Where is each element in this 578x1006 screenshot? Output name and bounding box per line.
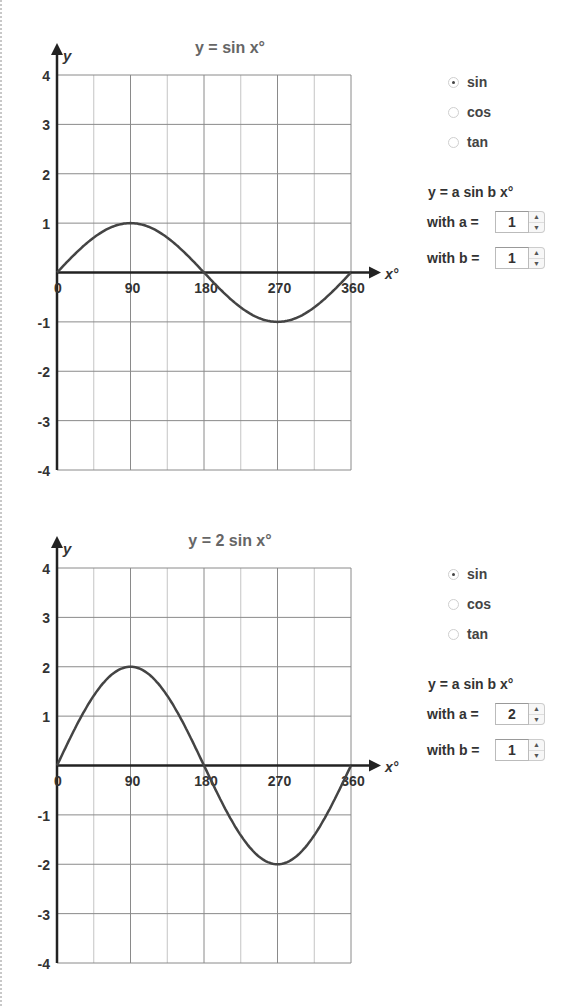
stepper-buttons[interactable]: ▲ ▼ — [529, 739, 545, 761]
chevron-down-icon[interactable]: ▼ — [529, 715, 544, 725]
x-axis-label: x° — [384, 266, 399, 282]
y-tick-label: 3 — [42, 610, 50, 626]
y-tick-label: -2 — [38, 364, 51, 380]
chevron-down-icon[interactable]: ▼ — [529, 259, 544, 269]
sine-graph-2: yx°y = 2 sin x°0901802703604321-1-2-3-4 — [0, 493, 420, 993]
y-tick-label: -3 — [38, 907, 51, 923]
param-b-row-2: with b = 1 ▲ ▼ — [427, 732, 570, 768]
param-b-stepper-1[interactable]: 1 ▲ ▼ — [495, 247, 545, 269]
param-a-input[interactable]: 2 — [495, 703, 529, 725]
y-tick-label: -1 — [38, 315, 51, 331]
radio-button-icon[interactable] — [448, 77, 459, 88]
formula-label-1: y = a sin b x° — [428, 184, 570, 204]
radio-button-icon[interactable] — [448, 137, 459, 148]
y-tick-label: -3 — [38, 414, 51, 430]
x-tick-label: 0 — [54, 280, 62, 296]
param-a-label: with a = — [427, 214, 495, 230]
param-b-stepper-2[interactable]: 1 ▲ ▼ — [495, 739, 545, 761]
chart-title: y = sin x° — [195, 39, 265, 56]
stepper-buttons[interactable]: ▲ ▼ — [529, 703, 545, 725]
radio-tan-2[interactable]: tan — [420, 619, 570, 649]
y-axis-arrow-icon — [51, 536, 63, 548]
y-tick-label: -4 — [38, 463, 51, 479]
stepper-buttons[interactable]: ▲ ▼ — [529, 247, 545, 269]
chevron-up-icon[interactable]: ▲ — [529, 704, 544, 715]
x-axis-label: x° — [384, 759, 399, 775]
radio-sin-2[interactable]: sin — [420, 559, 570, 589]
y-tick-label: 1 — [42, 216, 50, 232]
y-tick-label: 2 — [42, 167, 50, 183]
param-a-label: with a = — [427, 706, 495, 722]
chevron-down-icon[interactable]: ▼ — [529, 223, 544, 233]
radio-sin-1[interactable]: sin — [420, 67, 570, 97]
function-controls-1: sin cos tan y = a sin b x° with a = 1 ▲ … — [420, 67, 570, 276]
y-axis-label: y — [62, 47, 72, 64]
x-tick-label: 360 — [341, 280, 365, 296]
y-tick-label: 1 — [42, 709, 50, 725]
radio-cos-2[interactable]: cos — [420, 589, 570, 619]
param-a-row-1: with a = 1 ▲ ▼ — [427, 204, 570, 240]
y-tick-label: -4 — [38, 956, 51, 972]
y-tick-label: 3 — [42, 117, 50, 133]
graph-panel-1: yx°y = sin x°0901802703604321-1-2-3-4 si… — [0, 0, 578, 500]
radio-cos-1[interactable]: cos — [420, 97, 570, 127]
x-axis-arrow-icon — [369, 760, 381, 772]
param-b-label: with b = — [427, 250, 495, 266]
param-a-row-2: with a = 2 ▲ ▼ — [427, 696, 570, 732]
param-a-stepper-2[interactable]: 2 ▲ ▼ — [495, 703, 545, 725]
y-tick-label: 4 — [42, 561, 50, 577]
param-b-input[interactable]: 1 — [495, 739, 529, 761]
param-b-label: with b = — [427, 742, 495, 758]
param-a-stepper-1[interactable]: 1 ▲ ▼ — [495, 211, 545, 233]
chart-title: y = 2 sin x° — [188, 532, 271, 549]
radio-button-icon[interactable] — [448, 599, 459, 610]
param-a-input[interactable]: 1 — [495, 211, 529, 233]
chevron-up-icon[interactable]: ▲ — [529, 212, 544, 223]
x-tick-label: 90 — [125, 773, 141, 789]
stepper-buttons[interactable]: ▲ ▼ — [529, 211, 545, 233]
param-b-row-1: with b = 1 ▲ ▼ — [427, 240, 570, 276]
y-axis-label: y — [62, 540, 72, 557]
radio-button-icon[interactable] — [448, 107, 459, 118]
function-controls-2: sin cos tan y = a sin b x° with a = 2 ▲ … — [420, 559, 570, 768]
y-axis-arrow-icon — [51, 43, 63, 55]
chevron-up-icon[interactable]: ▲ — [529, 248, 544, 259]
y-tick-label: 4 — [42, 68, 50, 84]
radio-tan-1[interactable]: tan — [420, 127, 570, 157]
y-tick-label: -1 — [38, 808, 51, 824]
chevron-up-icon[interactable]: ▲ — [529, 740, 544, 751]
y-tick-label: 2 — [42, 660, 50, 676]
x-tick-label: 270 — [268, 280, 292, 296]
x-axis-arrow-icon — [369, 267, 381, 279]
param-b-input[interactable]: 1 — [495, 247, 529, 269]
formula-label-2: y = a sin b x° — [428, 676, 570, 696]
sine-graph-1: yx°y = sin x°0901802703604321-1-2-3-4 — [0, 0, 420, 500]
x-tick-label: 90 — [125, 280, 141, 296]
chevron-down-icon[interactable]: ▼ — [529, 751, 544, 761]
graph-panel-2: yx°y = 2 sin x°0901802703604321-1-2-3-4 … — [0, 493, 578, 993]
x-tick-label: 0 — [54, 773, 62, 789]
radio-button-icon[interactable] — [448, 569, 459, 580]
y-tick-label: -2 — [38, 857, 51, 873]
radio-button-icon[interactable] — [448, 629, 459, 640]
x-tick-label: 270 — [268, 773, 292, 789]
